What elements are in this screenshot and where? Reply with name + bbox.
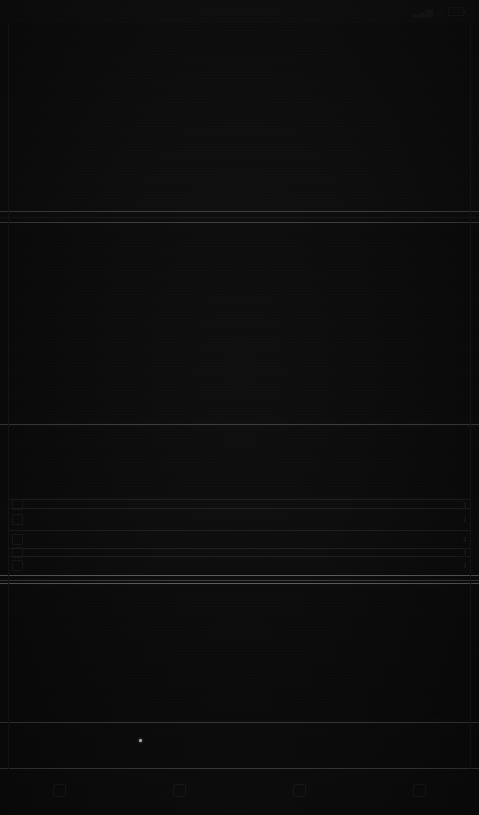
battery-icon: [448, 7, 464, 16]
tab-item-1[interactable]: [53, 784, 66, 800]
signal-icon: ▂▄▆: [412, 7, 433, 17]
section-separator-1b: [0, 217, 479, 218]
chevron-right-icon: [460, 517, 466, 522]
major-separator-1b: [0, 580, 479, 581]
chevron-right-icon: [460, 502, 466, 507]
major-separator-1: [0, 575, 479, 576]
tab-glyph-3-icon: [293, 784, 306, 797]
bottom-tab-bar: [0, 769, 479, 815]
chevron-right-icon: [460, 563, 466, 568]
list-item[interactable]: [8, 500, 470, 508]
cursor-indicator: [139, 739, 142, 742]
status-bar: ▂▄▆ ▵: [0, 0, 479, 23]
content-inset-right-edge: [470, 23, 471, 815]
list-item[interactable]: [8, 531, 470, 548]
content-section-3: [0, 588, 479, 718]
list-item[interactable]: [8, 549, 470, 556]
major-separator-2: [0, 583, 479, 584]
list-item[interactable]: [8, 557, 470, 574]
wifi-icon: ▵: [438, 7, 443, 17]
section-separator-1: [0, 211, 479, 212]
list-item-icon: [12, 560, 23, 571]
section-separator-2: [0, 222, 479, 223]
content-inset-left-edge: [8, 23, 9, 815]
tab-item-4[interactable]: [413, 784, 426, 800]
section-separator-3: [0, 424, 479, 425]
status-bar-indicators: ▂▄▆ ▵: [412, 7, 469, 17]
tab-glyph-1-icon: [53, 784, 66, 797]
section-separator-4: [0, 722, 479, 723]
list-item-icon: [12, 534, 23, 545]
chevron-right-icon: [460, 537, 466, 542]
list-item[interactable]: [8, 509, 470, 530]
list-item-icon: [12, 514, 23, 525]
content-section-1: [0, 226, 479, 422]
chevron-right-icon: [460, 550, 466, 555]
tab-glyph-4-icon: [413, 784, 426, 797]
tab-glyph-2-icon: [173, 784, 186, 797]
header-block: [0, 23, 479, 212]
app-screen: ▂▄▆ ▵: [0, 0, 479, 815]
tab-item-3[interactable]: [293, 784, 306, 800]
tab-item-2[interactable]: [173, 784, 186, 800]
content-section-2: [0, 428, 479, 496]
